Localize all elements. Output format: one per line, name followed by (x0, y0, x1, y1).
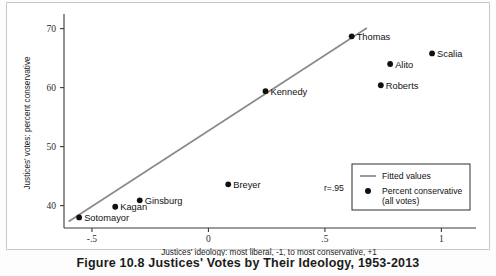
data-point-sotomayor: Sotomayor (76, 213, 129, 223)
point-label: Ginsburg (145, 196, 183, 206)
y-axis-title: Justices' votes: percent conservative (23, 56, 32, 190)
data-point-breyer: Breyer (225, 180, 260, 190)
point-label: Sotomayor (84, 213, 129, 223)
figure-container: 40506070-.50.51Justices' votes: percent … (0, 0, 496, 276)
y-tick-label: 60 (47, 83, 57, 93)
scatter-plot: 40506070-.50.51Justices' votes: percent … (0, 0, 496, 256)
x-tick-label: 1 (439, 234, 444, 244)
legend-label-percent-2: (all votes) (382, 196, 419, 206)
point-label: Roberts (386, 81, 419, 91)
x-tick-label: .5 (321, 234, 328, 244)
legend-label-fitted: Fitted values (382, 171, 431, 181)
point-label: Kagan (120, 202, 147, 212)
fitted-line-layer (69, 28, 367, 221)
point-label: Thomas (357, 32, 391, 42)
data-point-kagan: Kagan (112, 202, 147, 212)
point-label: Scalia (437, 49, 463, 59)
y-tick-label: 50 (47, 142, 57, 152)
point-marker (378, 82, 384, 88)
point-marker (349, 33, 355, 39)
legend-label-percent: Percent conservative (382, 186, 462, 196)
point-label: Kennedy (271, 87, 308, 97)
y-tick-label: 40 (47, 201, 57, 211)
data-point-roberts: Roberts (378, 81, 419, 91)
point-marker (76, 214, 82, 220)
point-marker (137, 197, 143, 203)
fitted-line (69, 28, 367, 221)
chart-legend: Fitted valuesPercent conservative(all vo… (324, 164, 470, 210)
point-marker (263, 88, 269, 94)
data-point-scalia: Scalia (429, 49, 463, 59)
data-point-alito: Alito (387, 60, 413, 70)
data-point-thomas: Thomas (349, 32, 391, 42)
correlation-annotation: r=.95 (324, 183, 344, 193)
x-tick-label: 0 (206, 234, 211, 244)
legend-marker-swatch (365, 188, 371, 194)
point-label: Alito (395, 60, 413, 70)
point-marker (112, 204, 118, 210)
point-label: Breyer (233, 180, 260, 190)
x-tick-label: -.5 (87, 234, 98, 244)
figure-caption: Figure 10.8 Justices' Votes by Their Ide… (0, 256, 496, 270)
point-marker (429, 50, 435, 56)
x-axis-title: Justices' ideology: most liberal, -1, to… (161, 248, 377, 256)
point-marker (387, 61, 393, 67)
point-marker (225, 181, 231, 187)
y-tick-label: 70 (47, 24, 57, 34)
